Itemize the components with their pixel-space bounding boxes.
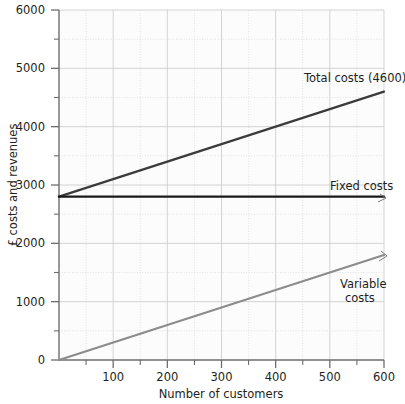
y-tick-label-4000: 4000	[16, 120, 45, 134]
total-costs-label: Total costs (4600)	[303, 71, 405, 85]
x-tick-label-500: 500	[319, 370, 341, 384]
x-tick-label-200: 200	[156, 370, 178, 384]
y-axis-title: £ costs and revenues	[6, 124, 20, 247]
y-tick-label-3000: 3000	[16, 178, 45, 192]
x-tick-label-100: 100	[102, 370, 124, 384]
variable-costs-label-line2: costs	[345, 291, 375, 305]
y-tick-label-1000: 1000	[16, 295, 45, 309]
fixed-costs-label: Fixed costs	[330, 179, 393, 193]
x-tick-label-300: 300	[211, 370, 233, 384]
x-axis-title: Number of customers	[159, 387, 284, 401]
x-tick-label-600: 600	[373, 370, 395, 384]
y-tick-label-2000: 2000	[16, 236, 45, 250]
y-tick-label-6000: 6000	[16, 3, 45, 17]
y-tick-label-0: 0	[38, 353, 45, 367]
cost-revenue-chart: 0 1000 2000 3000 4000 5000 6000 100 200 …	[0, 0, 405, 404]
x-tick-label-400: 400	[265, 370, 287, 384]
y-axis-major-ticks	[51, 10, 59, 360]
chart-canvas: 0 1000 2000 3000 4000 5000 6000 100 200 …	[0, 0, 405, 404]
y-tick-label-5000: 5000	[16, 61, 45, 75]
variable-costs-label-line1: Variable	[340, 277, 387, 291]
